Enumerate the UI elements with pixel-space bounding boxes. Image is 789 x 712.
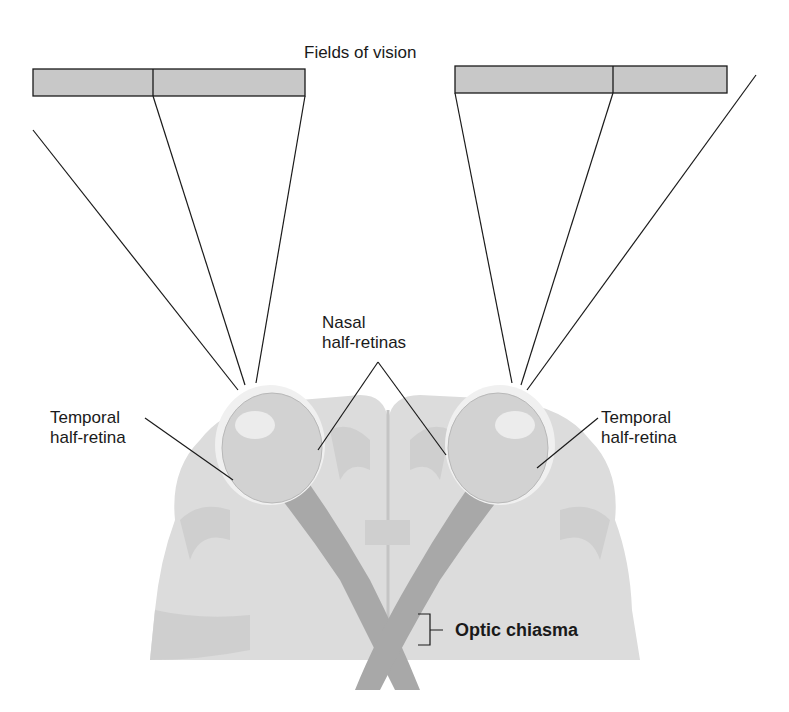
fields-of-vision-label: Fields of vision [304, 43, 416, 63]
label-line: Nasal [322, 313, 406, 333]
label-line: half-retina [601, 428, 677, 448]
label-line: half-retina [50, 428, 126, 448]
visual-pathway-diagram [0, 0, 789, 712]
right-visual-field [455, 66, 727, 93]
label-line: Temporal [601, 408, 677, 428]
right-eye [445, 385, 555, 505]
label-line: Temporal [50, 408, 126, 428]
optic-chiasma-label: Optic chiasma [455, 620, 578, 640]
temporal-half-retina-right-label: Temporal half-retina [601, 408, 677, 448]
temporal-half-retina-left-label: Temporal half-retina [50, 408, 126, 448]
label-line: half-retinas [322, 333, 406, 353]
nasal-half-retinas-label: Nasal half-retinas [322, 313, 406, 353]
left-visual-field [33, 69, 305, 96]
left-eye [215, 385, 325, 505]
